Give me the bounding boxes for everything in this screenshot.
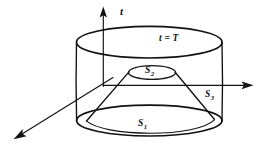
- cylinder-top-ellipse: [77, 26, 223, 58]
- bottom-surface-label-subscript: 1: [144, 123, 148, 130]
- frustum-lateral-surface-label-subscript: 3: [211, 94, 215, 101]
- depth-axis-arrowhead: [14, 129, 27, 139]
- bottom-surface-label-base: S: [138, 118, 143, 128]
- top-surface-label: t = T: [159, 34, 179, 44]
- bottom-surface-label: S1: [138, 119, 147, 129]
- diagram-canvas: [0, 0, 264, 148]
- frustum-top-surface-label-subscript: 2: [151, 70, 155, 77]
- cylinder-bottom-ellipse: [77, 105, 222, 136]
- frustum-top-surface-label: S2: [145, 66, 154, 76]
- frustum-lateral-surface-label-base: S: [205, 89, 210, 99]
- frustum-left-edge: [87, 72, 130, 121]
- frustum-top-surface-label-base: S: [145, 65, 150, 75]
- t-axis-label: t: [120, 6, 123, 17]
- frustum-lateral-surface-label: S3: [205, 90, 214, 100]
- frustum-base-arc: [87, 120, 215, 133]
- figure-container: t t = T S2 S3 S1: [0, 0, 264, 148]
